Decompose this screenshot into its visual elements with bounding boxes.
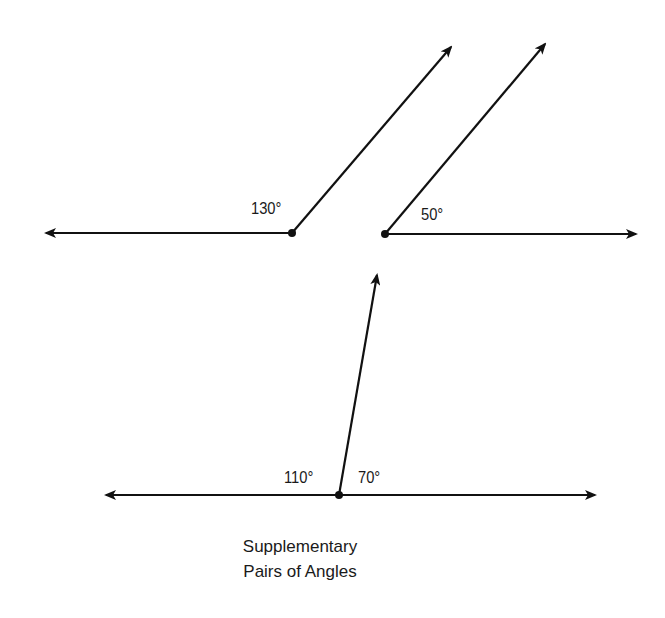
angle-label-70: 70° bbox=[358, 469, 380, 487]
angle-50-figure bbox=[381, 44, 636, 238]
vertex-dot bbox=[335, 491, 343, 499]
angle-110-70-figure bbox=[106, 275, 595, 499]
angle-label-50: 50° bbox=[421, 206, 443, 224]
caption: Supplementary Pairs of Angles bbox=[230, 534, 370, 584]
vertex-dot bbox=[381, 230, 389, 238]
ray-up bbox=[339, 275, 377, 495]
vertex-dot bbox=[288, 229, 296, 237]
angle-130-figure bbox=[46, 47, 451, 237]
caption-line-1: Supplementary bbox=[230, 534, 370, 559]
angles-diagram bbox=[0, 0, 665, 618]
caption-line-2: Pairs of Angles bbox=[230, 559, 370, 584]
angle-label-110: 110° bbox=[284, 469, 313, 487]
angle-label-130: 130° bbox=[251, 200, 281, 218]
ray-up-right bbox=[385, 44, 545, 234]
